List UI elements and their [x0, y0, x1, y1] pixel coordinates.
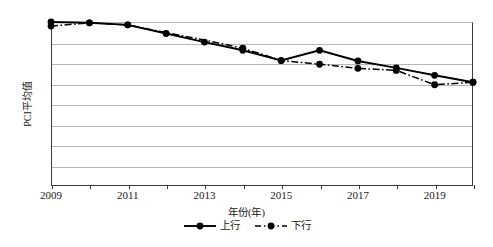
legend-swatch-2-icon	[254, 221, 288, 231]
x-axis-tick	[90, 185, 91, 189]
plot-area	[51, 22, 473, 186]
gridline	[52, 146, 472, 147]
gridline	[52, 64, 472, 65]
y-axis-title: PCI平均值	[19, 81, 34, 127]
x-axis-tick-label: 2013	[179, 190, 229, 201]
gridline	[52, 85, 472, 86]
x-axis-tick	[397, 185, 398, 189]
legend-item-2[interactable]: 下行	[254, 221, 311, 232]
legend-item-1[interactable]: 上行	[183, 221, 240, 232]
x-axis-tick-label: 2019	[410, 190, 460, 201]
x-axis-tick	[474, 185, 475, 189]
legend-swatch-1-icon	[183, 221, 217, 231]
gridline	[52, 105, 472, 106]
x-axis-tick-label: 2017	[333, 190, 383, 201]
x-axis-title: 年份(年)	[0, 204, 493, 219]
x-axis-tick-label: 2009	[26, 190, 76, 201]
legend-label-2: 下行	[291, 221, 311, 232]
chart-legend: 上行下行	[0, 221, 493, 232]
chart-figure: PCI平均值 1009590858075706560 2009201120132…	[0, 0, 493, 247]
x-axis-tick-label: 2011	[103, 190, 153, 201]
legend-label-1: 上行	[220, 221, 240, 232]
x-axis-tick	[167, 185, 168, 189]
x-axis-tick	[244, 185, 245, 189]
gridline	[52, 126, 472, 127]
x-axis-tick-label: 2015	[256, 190, 306, 201]
gridline	[52, 44, 472, 45]
x-axis-tick	[321, 185, 322, 189]
gridline	[52, 167, 472, 168]
y-axis-title-container: PCI平均值	[6, 22, 22, 186]
